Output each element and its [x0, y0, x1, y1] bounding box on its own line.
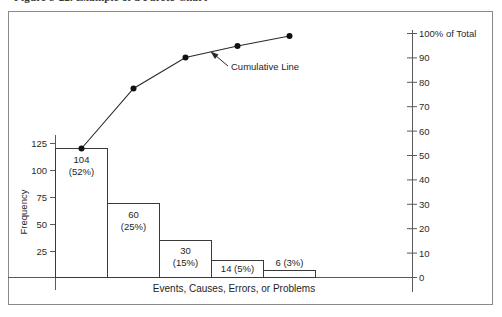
cumulative-point-4 [235, 43, 241, 49]
cumulative-line-annotation: Cumulative Line [211, 52, 300, 73]
y2-tick-label-10: 10 [419, 248, 430, 259]
y-tick-label-25: 25 [36, 246, 47, 257]
cumulative-point-1 [79, 146, 85, 152]
y2-tick-label-40: 40 [419, 174, 430, 185]
y-tick-label-50: 50 [36, 219, 47, 230]
y2-tick-50: 50 [407, 150, 430, 161]
y2-tick-90: 90 [407, 52, 430, 63]
y2-tick-label-80: 80 [419, 77, 430, 88]
y2-tick-label-90: 90 [419, 52, 430, 63]
bar-5 [264, 271, 316, 278]
y2-tick-100: 100% of Total [407, 28, 476, 39]
cumulative-point-3 [183, 55, 189, 61]
bar-label-3-count: 30 [180, 245, 191, 256]
y2-tick-10: 10 [407, 248, 430, 259]
y2-tick-70: 70 [407, 101, 430, 112]
y2-tick-40: 40 [407, 174, 430, 185]
bar-label-1-percent: (52%) [69, 166, 94, 177]
y2-tick-label-50: 50 [419, 150, 430, 161]
bar-label-1-count: 104 [74, 154, 90, 165]
y2-tick-80: 80 [407, 77, 430, 88]
y2-tick-label-60: 60 [419, 126, 430, 137]
y2-tick-label-30: 30 [419, 199, 430, 210]
pareto-chart: 125 100 75 50 25 Frequency [0, 0, 502, 317]
y-axis-percent: 100% of Total 90 80 70 60 50 [407, 28, 476, 292]
y2-tick-label-20: 20 [419, 223, 430, 234]
y2-tick-label-0: 0 [419, 272, 424, 283]
y-tick-75: 75 [36, 192, 55, 203]
y-tick-label-75: 75 [36, 192, 47, 203]
bar-label-2-count: 60 [128, 209, 139, 220]
y-tick-label-100: 100 [31, 165, 47, 176]
y2-tick-label-70: 70 [419, 101, 430, 112]
bar-label-3-percent: (15%) [173, 257, 198, 268]
y-tick-label-125: 125 [31, 138, 47, 149]
bar-label-2-percent: (25%) [121, 221, 146, 232]
cumulative-point-2 [131, 86, 137, 92]
y-tick-25: 25 [36, 246, 55, 257]
bar-label-4: 14 (5%) [221, 263, 254, 274]
y-tick-125: 125 [31, 138, 55, 149]
y2-tick-label-100: 100% of Total [419, 28, 476, 39]
y2-tick-20: 20 [407, 223, 430, 234]
y-axis-title: Frequency [18, 189, 29, 234]
y-tick-100: 100 [31, 165, 55, 176]
y-tick-50: 50 [36, 219, 55, 230]
bar-label-5: 6 (3%) [276, 257, 304, 268]
cumulative-point-5 [287, 33, 293, 39]
cumulative-line-annotation-label: Cumulative Line [231, 61, 299, 72]
y2-tick-60: 60 [407, 126, 430, 137]
cumulative-line [79, 33, 293, 152]
y-axis-frequency: 125 100 75 50 25 Frequency [18, 135, 56, 290]
x-axis-caption: Events, Causes, Errors, or Problems [153, 283, 315, 294]
y2-tick-30: 30 [407, 199, 430, 210]
